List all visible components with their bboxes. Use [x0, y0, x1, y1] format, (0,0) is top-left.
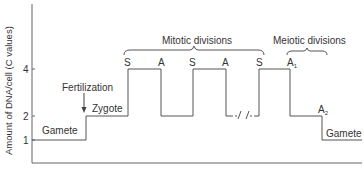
- phase-a2: A: [222, 57, 229, 68]
- gamete-right-label: Gamete: [326, 128, 362, 139]
- tick-label-1: 1: [23, 135, 29, 146]
- break-slash-2: [246, 111, 249, 119]
- phase-meiotic-a2: A2: [318, 104, 329, 116]
- dna-content-diagram: 4 2 1 Amount of DNA/cell (C values) Game…: [0, 0, 364, 171]
- mitotic-brace: [124, 46, 264, 55]
- meiotic-brace: [287, 48, 327, 55]
- break-slash-1: [238, 111, 241, 119]
- mitotic-divisions-label: Mitotic divisions: [162, 35, 232, 46]
- tick-label-2: 2: [23, 111, 29, 122]
- y-axis-label: Amount of DNA/cell (C values): [3, 26, 14, 155]
- phase-meiotic-a1: A1: [287, 57, 298, 69]
- zygote-label: Zygote: [92, 103, 123, 114]
- tick-label-4: 4: [23, 64, 29, 75]
- fertilization-label: Fertilization: [62, 82, 113, 93]
- phase-s2: S: [189, 57, 196, 68]
- gamete-left-label: Gamete: [42, 125, 78, 136]
- arrow-head-icon: [82, 107, 87, 113]
- phase-s3: S: [256, 57, 263, 68]
- phase-a1: A: [158, 57, 165, 68]
- phase-s1: S: [124, 57, 131, 68]
- meiotic-divisions-label: Meiotic divisions: [273, 35, 346, 46]
